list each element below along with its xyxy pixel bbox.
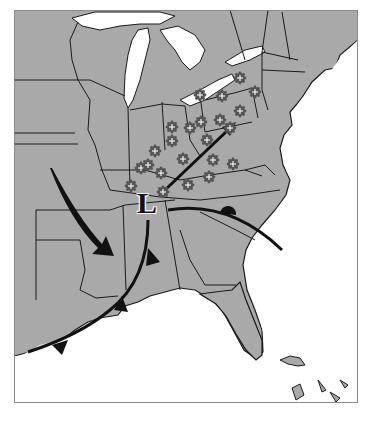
- map-frame: [14, 10, 358, 403]
- weather-map: L: [0, 0, 372, 432]
- low-pressure-label: L: [137, 188, 157, 218]
